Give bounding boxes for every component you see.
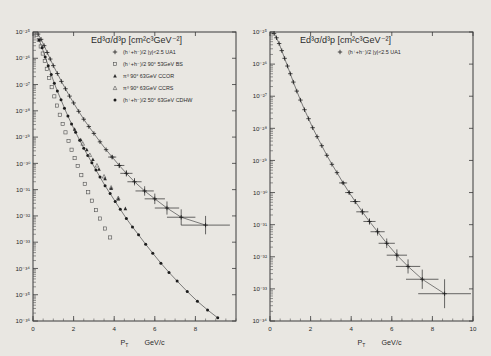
datapoint-left-0-7 [59,79,63,83]
datapoint-left-2-10 [70,122,73,125]
y-ticklabel-left-4: 10⁻²⁹ [15,133,30,140]
x-ticklabel-left-3: 6 [153,325,157,332]
datapoint-left-0-12 [82,117,86,121]
datapoint-right-0-11 [306,117,310,121]
datapoint-right-0-19 [347,190,351,194]
plot-title-right: Ed³σ/d³p [cm²c³GeV⁻²] [300,35,391,45]
y-ticklabel-left-6: 10⁻³¹ [16,186,30,193]
x-ticklabel-right-1: 2 [309,325,313,332]
series-left-2 [38,38,220,319]
legend-label-left-1: (h⁺+h⁻)/2 90° 53GeV BS [123,61,183,67]
datapoint-left-1-7 [50,86,53,89]
datapoint-right-0-3 [280,48,284,52]
y-ticklabel-right-5: 10⁻³⁰ [253,189,268,196]
x-axis-unit-left: GeV/c [145,338,165,347]
datapoint-right-0-15 [325,153,329,157]
y-ticklabel-left-11: 10⁻³⁶ [16,317,31,324]
x-ticklabel-right-3: 6 [390,325,394,332]
datapoint-left-3-4 [97,167,101,171]
datapoint-left-2-0 [38,38,41,41]
datapoint-left-2-19 [109,192,112,195]
series-right-0 [272,31,471,308]
datapoint-left-1-5 [45,67,48,70]
datapoint-left-1-21 [94,209,97,212]
datapoint-left-0-4 [48,57,52,61]
datapoint-left-2-2 [44,55,47,58]
datapoint-left-2-27 [159,262,162,265]
datapoint-left-2-29 [176,280,179,283]
y-ticklabel-left-9: 10⁻³⁴ [15,265,30,272]
x-axis-title-left: PT [121,338,129,348]
datapoint-left-3-3 [91,157,95,161]
datapoint-left-2-20 [114,200,117,203]
datapoint-left-2-15 [90,161,93,164]
x-axis-title-right: PT [358,338,366,348]
fit-curve-right-0 [274,34,445,294]
fit-curve-left-2 [39,40,218,318]
datapoint-left-3-8 [124,207,128,211]
x-ticklabel-left-1: 2 [72,325,76,332]
x-axis-unit-right: GeV/c [382,338,402,347]
datapoint-left-2-13 [82,147,85,150]
datapoint-left-2-5 [53,82,56,85]
y-ticklabel-right-6: 10⁻³¹ [253,221,267,228]
datapoint-left-1-23 [103,227,106,230]
x-ticklabel-left-2: 4 [112,325,116,332]
x-axis-title-sub-right: T [362,342,365,348]
datapoint-left-1-13 [67,139,70,142]
datapoint-left-2-17 [98,176,101,179]
datapoint-left-0-3 [45,50,49,54]
datapoint-left-2-16 [94,168,97,171]
left-legend-marker-2 [113,74,117,78]
panel-right: 10⁻²⁵10⁻²⁶10⁻²⁷10⁻²⁸10⁻²⁹10⁻³⁰10⁻³¹10⁻³²… [252,28,477,348]
datapoint-left-1-18 [83,182,86,185]
datapoint-right-0-7 [291,80,295,84]
datapoint-left-2-7 [60,98,63,101]
datapoint-right-0-6 [288,72,292,76]
datapoint-right-0-8 [295,89,299,93]
datapoint-right-0-12 [310,125,314,129]
datapoint-right-0-16 [330,162,334,166]
legend-label-right-0: (h⁺+h⁻)/2 |y|<2.5 UA1 [348,49,401,55]
datapoint-left-1-16 [76,164,79,167]
figure-canvas: 10⁻²⁵10⁻²⁶10⁻²⁷10⁻²⁸10⁻²⁹10⁻³⁰10⁻³¹10⁻³²… [0,0,491,356]
y-ticklabel-right-8: 10⁻³³ [253,285,267,292]
datapoint-left-2-8 [63,107,66,110]
right-legend-marker-0 [338,50,342,54]
y-ticklabel-right-3: 10⁻²⁸ [252,125,267,132]
datapoint-left-0-6 [55,71,59,75]
y-ticklabel-left-5: 10⁻³⁰ [16,160,31,167]
datapoint-right-0-28 [442,292,446,296]
datapoint-left-1-8 [53,95,56,98]
datapoint-left-1-24 [109,236,112,239]
datapoint-right-0-10 [302,108,306,112]
datapoint-left-0-25 [203,223,207,227]
y-ticklabel-left-0: 10⁻²⁵ [15,28,30,35]
datapoint-right-0-20 [353,199,357,203]
datapoint-left-1-17 [80,174,83,177]
datapoint-left-1-12 [64,131,67,134]
datapoint-left-2-3 [47,64,50,67]
datapoint-right-0-9 [298,98,302,102]
datapoint-right-0-1 [274,36,278,40]
panel-left: 10⁻²⁵10⁻²⁶10⁻²⁷10⁻²⁸10⁻²⁹10⁻³⁰10⁻³¹10⁻³²… [15,28,236,348]
datapoint-left-1-22 [98,217,101,220]
y-ticklabel-left-8: 10⁻³³ [16,238,30,245]
legend-label-left-3: π⁰ 90° 63GeV CCRS [123,85,174,91]
x-ticklabel-right-4: 8 [431,325,435,332]
legend-label-left-4: (h⁺+h⁻)/2 50° 63GeV CDHW [123,97,193,103]
datapoint-left-2-28 [168,271,171,274]
x-ticklabel-left-4: 8 [194,325,198,332]
datapoint-left-2-31 [196,300,199,303]
series-left-1 [35,33,112,239]
y-ticklabel-right-1: 10⁻²⁶ [253,60,268,67]
left-legend-marker-3 [113,86,117,90]
y-ticklabel-left-1: 10⁻²⁶ [16,54,31,61]
left-legend-marker-0 [113,50,117,54]
datapoint-left-0-24 [179,215,183,219]
y-ticklabel-right-9: 10⁻³⁴ [252,317,267,324]
x-ticklabel-left-0: 0 [31,325,35,332]
datapoint-left-0-10 [71,101,75,105]
datapoint-left-2-23 [131,225,134,228]
y-ticklabel-right-0: 10⁻²⁵ [252,28,267,35]
